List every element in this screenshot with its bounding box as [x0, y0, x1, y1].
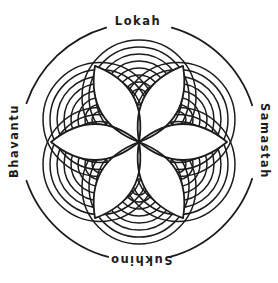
label-samastah: Samastah: [258, 103, 272, 179]
label-bhavantu: Bhavantu: [7, 104, 21, 178]
label-sukhino: Sukhino: [110, 253, 173, 267]
mandala-page: Lokah Samastah Sukhino Bhavantu: [0, 0, 278, 283]
label-lokah: Lokah: [115, 14, 161, 28]
mandala-drawing: Lokah Samastah Sukhino Bhavantu: [0, 0, 278, 283]
